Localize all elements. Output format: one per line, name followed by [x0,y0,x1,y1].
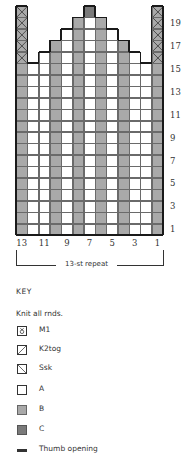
chart-cell [39,178,51,190]
chart-cell [106,143,118,155]
chart-cell [16,178,28,190]
chart-cell [50,75,62,87]
chart-cell [16,166,28,178]
row-label: 5 [170,178,175,188]
chart-cell [84,98,96,110]
chart-cell [39,212,51,224]
chart-cell [118,121,130,133]
chart-cell [140,121,152,133]
chart-cell [50,109,62,121]
chart-cell [106,201,118,213]
chart-cell [118,166,130,178]
chart-cell [61,121,73,133]
chart-cell [106,178,118,190]
chart-cell [73,86,85,98]
chart-cell [84,212,96,224]
chart-cell [27,121,39,133]
key-item-b: B [17,405,177,416]
chart-cell [61,178,73,190]
chart-cell [50,98,62,110]
chart-cell [16,189,28,201]
chart-cell [73,121,85,133]
key-item-a: A [17,385,177,396]
row-label: 9 [170,133,175,143]
chart-cell [95,201,107,213]
chart-cell [50,155,62,167]
chart-cell [61,75,73,87]
chart-cell [27,63,39,75]
key-label: C [39,424,44,433]
chart-cell [27,98,39,110]
chart-cell [39,121,51,133]
chart-outline [151,6,153,63]
chart-cell [50,166,62,178]
chart-cell [106,98,118,110]
chart-cell [73,98,85,110]
chart-cell [50,86,62,98]
chart-cell [16,212,28,224]
chart-cell [118,155,130,167]
chart-cell [95,178,107,190]
chart-outline [128,40,130,51]
repeat-bracket-left [16,250,17,265]
chart-cell [106,75,118,87]
chart-outline [16,234,163,236]
chart-cell [129,201,141,213]
chart-outline [38,52,40,63]
key-item-c: C [17,425,177,436]
column-label: 13 [16,238,28,248]
chart-cell [61,201,73,213]
repeat-label: 13-st repeat [56,260,117,268]
key-item-m1: M1 [17,326,177,337]
chart-cell [95,63,107,75]
chart-cell [61,98,73,110]
chart-cell [106,63,118,75]
chart-cell [61,52,73,64]
repeat-bracket-line-right [117,265,164,266]
chart-cell [50,63,62,75]
chart-cell [50,40,62,52]
key-label: B [39,404,44,413]
chart-cell [95,155,107,167]
chart-cell [39,155,51,167]
key-item-k2tog: K2tog [17,345,177,356]
chart-cell [106,109,118,121]
chart-cell [129,63,141,75]
chart-cell [118,63,130,75]
chart-cell [16,155,28,167]
chart-cell [61,86,73,98]
chart-cell [84,143,96,155]
key-label: Thumb opening [39,444,98,453]
row-label: 1 [170,224,175,234]
chart-cell [50,143,62,155]
chart-cell [140,109,152,121]
chart-cell [16,75,28,87]
chart-outline [15,6,17,235]
chart-cell [140,212,152,224]
chart-cell [95,98,107,110]
chart-cell [84,189,96,201]
chart-cell [61,109,73,121]
chart-outline [72,17,74,28]
chart-cell [106,212,118,224]
row-label: 15 [170,64,181,74]
key-label: M1 [39,325,50,334]
chart-cell [27,178,39,190]
chart-cell [61,40,73,52]
column-label: 7 [84,238,96,248]
chart-cell [106,132,118,144]
chart-cell [27,132,39,144]
chart-cell [106,155,118,167]
chart-cell [73,63,85,75]
chart-cell [16,143,28,155]
chart-cell [73,132,85,144]
chart-outline [162,6,164,235]
chart-cell [140,143,152,155]
chart-outline [27,6,29,63]
chart-cell [84,155,96,167]
chart-cell [61,132,73,144]
ssk-icon [17,364,27,374]
column-label: 3 [129,238,141,248]
chart-cell [84,17,96,29]
chart-cell [118,75,130,87]
